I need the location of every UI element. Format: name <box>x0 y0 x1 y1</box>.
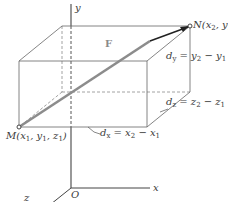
point-M-label: M(x1, y1, z1) <box>6 131 67 143</box>
point-N-text: N(x2, y2, z2) <box>193 19 228 30</box>
z-axis-label: z <box>24 193 29 202</box>
point-M-text: M(x1, y1, z1) <box>6 130 67 141</box>
dy-text: dy = y2 − y1 <box>166 50 226 61</box>
point-N-label: N(x2, y2, z2) <box>193 20 228 32</box>
z-axis <box>31 188 71 202</box>
dz-text: dz = z2 − z1 < 0 <box>166 96 228 107</box>
origin-label: O <box>71 190 79 200</box>
vector-arrowhead <box>180 26 189 32</box>
dx-leader <box>88 127 100 134</box>
x-axis-label: x <box>153 183 159 193</box>
point-M <box>17 125 21 129</box>
dy-label: dy = y2 − y1 <box>166 51 226 63</box>
point-N <box>188 24 192 28</box>
vector-label: F <box>105 39 112 49</box>
dx-label: dx = x2 − x1 <box>100 128 160 140</box>
y-axis-label: y <box>75 3 81 13</box>
dx-text: dx = x2 − x1 <box>100 127 160 138</box>
dz-label: dz = z2 − z1 < 0 <box>166 97 228 109</box>
vector-F-shaft <box>19 41 150 127</box>
